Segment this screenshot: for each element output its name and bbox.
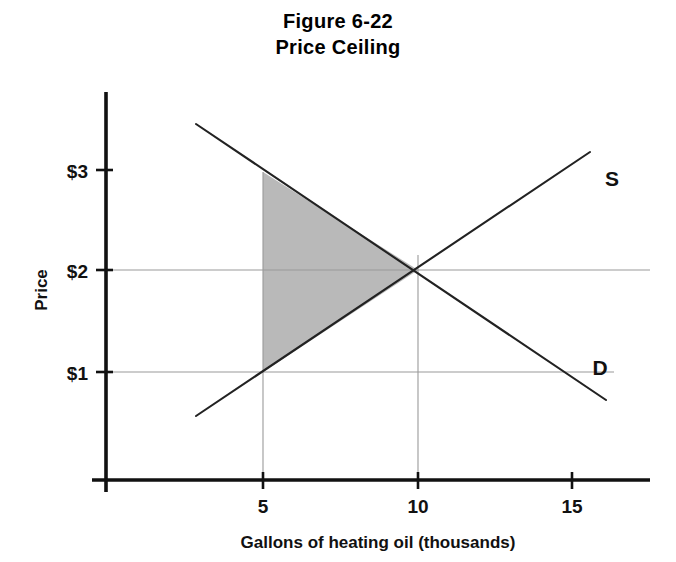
- supply-curve-label: S: [605, 167, 619, 190]
- x-tick-label-10: 10: [407, 496, 428, 517]
- x-tick-label-15: 15: [561, 496, 583, 517]
- deadweight-loss-region: [263, 172, 418, 372]
- supply-curve: [196, 152, 590, 416]
- y-tick-label-1: $1: [67, 363, 89, 384]
- x-tick-label-5: 5: [258, 496, 269, 517]
- demand-curve: [196, 124, 606, 400]
- x-axis-title: Gallons of heating oil (thousands): [241, 533, 516, 552]
- figure-container: Figure 6-22 Price Ceiling $3 $2 $1 5: [0, 0, 676, 562]
- y-tick-label-2: $2: [67, 261, 88, 282]
- y-axis-title: Price: [32, 269, 51, 311]
- demand-curve-label: D: [592, 356, 607, 379]
- price-ceiling-chart: $3 $2 $1 5 10 15 S D Price Gallons of he…: [0, 0, 676, 562]
- y-tick-label-3: $3: [67, 161, 88, 182]
